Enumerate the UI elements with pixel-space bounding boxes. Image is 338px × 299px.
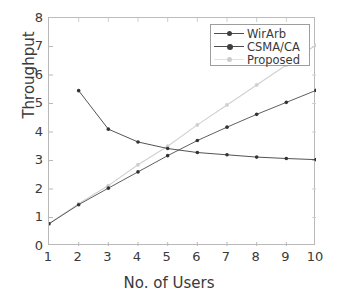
datapoint [136, 170, 140, 174]
legend-label-csmaca: CSMA/CA [247, 41, 300, 53]
datapoint [255, 155, 259, 159]
datapoint [77, 203, 81, 207]
x-tick-6: 6 [184, 250, 208, 263]
datapoint [107, 127, 111, 131]
legend: WirArb CSMA/CA Proposed [210, 24, 310, 66]
datapoint [255, 113, 259, 117]
x-axis-title: No. of Users [0, 274, 338, 292]
x-tick-1: 1 [36, 250, 60, 263]
series-proposed [49, 43, 316, 225]
datapoint [255, 83, 259, 87]
legend-label-wirarb: WirArb [247, 28, 286, 40]
x-tick-10: 10 [303, 250, 327, 263]
datapoint [285, 101, 289, 105]
datapoint [195, 123, 199, 127]
datapoint [196, 139, 200, 143]
datapoint [136, 140, 140, 144]
legend-item-wirarb: WirArb [214, 27, 306, 40]
x-tick-8: 8 [244, 250, 268, 263]
x-tick-7: 7 [214, 250, 238, 263]
datapoint [77, 89, 81, 93]
datapoint [225, 103, 229, 107]
y-tick-3: 3 [21, 153, 43, 166]
legend-swatch-csmaca [214, 41, 244, 53]
legend-item-csmaca: CSMA/CA [214, 40, 306, 53]
datapoint [285, 157, 289, 161]
x-tick-5: 5 [155, 250, 179, 263]
x-tick-3: 3 [95, 250, 119, 263]
datapoint [107, 186, 111, 190]
x-tick-4: 4 [125, 250, 149, 263]
y-tick-1: 1 [21, 210, 43, 223]
x-tick-9: 9 [273, 250, 297, 263]
y-axis-title: Throughput [20, 0, 38, 150]
legend-swatch-wirarb [214, 28, 244, 40]
series-line-proposed [49, 45, 316, 224]
legend-item-proposed: Proposed [214, 53, 306, 66]
datapoint [136, 163, 140, 167]
datapoint [225, 125, 229, 129]
throughput-line-chart: 012345678 12345678910 Throughput No. of … [0, 0, 338, 299]
x-tick-2: 2 [66, 250, 90, 263]
datapoint [314, 89, 316, 93]
series-line-wirarb [49, 90, 316, 223]
datapoint [225, 153, 229, 157]
legend-label-proposed: Proposed [247, 54, 300, 66]
y-tick-2: 2 [21, 182, 43, 195]
datapoint [196, 151, 200, 155]
datapoint [166, 147, 170, 151]
datapoint [166, 154, 170, 158]
series-wirarb [49, 89, 316, 226]
legend-swatch-proposed [214, 54, 244, 66]
